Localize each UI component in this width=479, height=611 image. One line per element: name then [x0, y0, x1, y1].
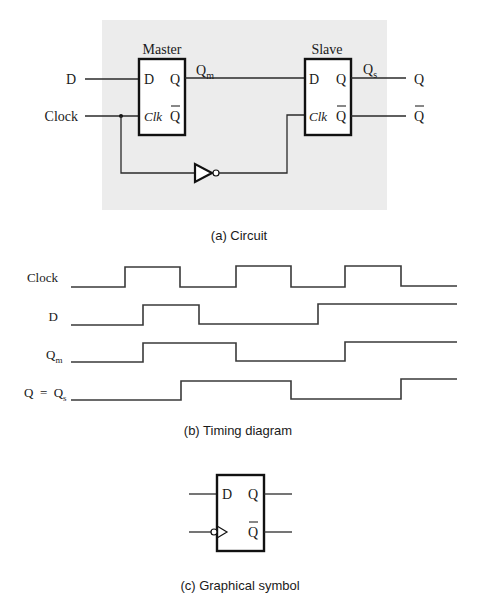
- symbol-pin-qbar: Q: [248, 525, 258, 540]
- timing-label-q: Q = Qs: [24, 385, 67, 403]
- q-output-label: Q: [414, 72, 424, 87]
- timing-label-d: D: [49, 309, 58, 324]
- timing-label-qm: Qm: [46, 347, 62, 365]
- graphical-symbol: D Q Q (c) Graphical symbol: [180, 475, 299, 593]
- master-title: Master: [143, 42, 182, 57]
- slave-pin-clk: Clk: [309, 109, 327, 124]
- master-pin-d: D: [144, 72, 154, 87]
- q-waveform: [71, 379, 457, 400]
- slave-pin-q: Q: [336, 72, 346, 87]
- d-waveform: [71, 304, 457, 325]
- slave-title: Slave: [311, 42, 342, 57]
- d-input-label: D: [66, 72, 76, 87]
- symbol-pin-q: Q: [248, 487, 258, 502]
- clock-input-label: Clock: [45, 109, 78, 124]
- master-pin-q: Q: [170, 72, 180, 87]
- master-slave-flip-flop-figure: D Clock Master D Q Clk Q Qm Slave D Q Cl…: [0, 0, 479, 611]
- slave-pin-qbar: Q: [336, 109, 346, 124]
- slave-pin-d: D: [309, 72, 319, 87]
- master-pin-clk: Clk: [144, 109, 162, 124]
- circuit-caption: (a) Circuit: [211, 228, 268, 243]
- timing-diagram: Clock D Qm Q = Qs (b) Timing diagram: [24, 266, 457, 438]
- qm-waveform: [71, 342, 457, 362]
- qbar-output-label: Q: [414, 109, 424, 124]
- circuit-diagram: D Clock Master D Q Clk Q Qm Slave D Q Cl…: [45, 20, 425, 243]
- timing-caption: (b) Timing diagram: [184, 423, 292, 438]
- symbol-pin-d: D: [222, 487, 232, 502]
- master-pin-qbar: Q: [170, 109, 180, 124]
- timing-label-clock: Clock: [27, 270, 59, 285]
- clock-waveform: [71, 266, 457, 287]
- symbol-caption: (c) Graphical symbol: [180, 578, 299, 593]
